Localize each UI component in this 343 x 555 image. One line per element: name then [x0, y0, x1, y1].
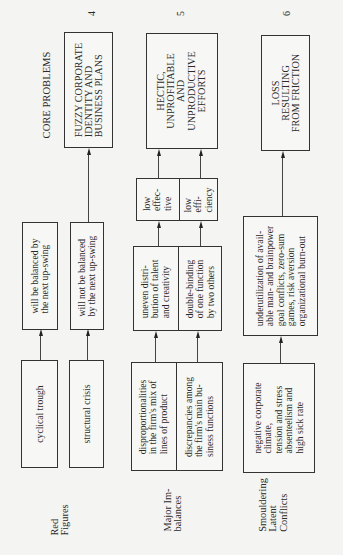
outcome-low-effective: low effec- tive [142, 188, 173, 210]
effect-talent-binding: uneven distri- bution of talent and crea… [133, 246, 222, 331]
connector-line [200, 227, 201, 246]
effect-underutilization: underutilization of avail- able man- and… [243, 216, 318, 336]
column-number-4: 4 [86, 11, 97, 16]
connector-line [88, 154, 89, 222]
arrow-up-icon [154, 331, 158, 338]
arrow-up-icon [199, 221, 203, 228]
cause-cyclical-trough: cyclical trough [21, 360, 58, 468]
column-number-5: 5 [175, 11, 186, 16]
effect-not-balanced-next-upswing: will not be balanced by the next up-swin… [70, 222, 104, 330]
connector-line [200, 155, 201, 178]
core-problem-loss-friction: LOSS RESULTING FROM FRICTION [261, 35, 310, 151]
connector-line [40, 335, 41, 360]
arrow-up-icon [157, 149, 161, 156]
effect-uneven-distribution: uneven distri- bution of talent and crea… [140, 259, 171, 318]
cause-disproportionalities: disproportionalities in the firm's mix o… [138, 379, 169, 454]
connector-line [87, 335, 88, 360]
connector-line [280, 342, 281, 363]
connector-line [282, 157, 283, 216]
cause-discrepancies: discrepancies among the firm's main bu- … [184, 376, 215, 456]
arrow-up-icon [281, 151, 285, 158]
arrow-up-icon [86, 329, 90, 336]
connector-line [197, 337, 198, 362]
arrow-up-icon [279, 336, 283, 343]
connector-line [158, 227, 159, 246]
cause-imbalances: disproportionalities in the firm's mix o… [131, 362, 223, 471]
core-problem-hectic-efforts: HECTIC, UNPROFITABLE AND UNPRODUCTIVE EF… [146, 33, 218, 149]
connector-line [158, 155, 159, 178]
column-number-6: 6 [281, 11, 292, 16]
outcome-low-efficiency: low effi- ciency [183, 187, 214, 212]
arrow-up-icon [87, 148, 91, 155]
connector-line [155, 337, 156, 362]
arrow-up-icon [199, 149, 203, 156]
core-problem-fuzzy-identity: FUZZY CORPORATE IDENTITY AND BUSINESS PL… [64, 32, 113, 148]
cause-negative-climate: negative corporate climate, tension and … [243, 363, 315, 473]
cause-structural-crisis: structural crisis [69, 360, 104, 468]
effect-double-binding: double-binding of one function by two ot… [185, 259, 216, 318]
effect-balanced-next-upswing: will be balanced by the next up-swing [22, 222, 58, 330]
outcome-low-effectiveness-efficiency: low effec- tive low effi- ciency [136, 178, 218, 221]
arrow-up-icon [39, 329, 43, 336]
arrow-up-icon [196, 331, 200, 338]
arrow-up-icon [157, 221, 161, 228]
